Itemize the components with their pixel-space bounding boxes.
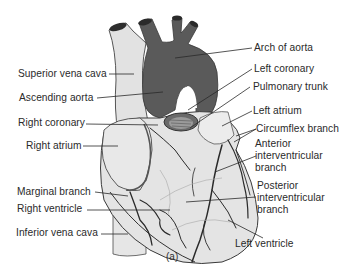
label-right-atrium: Right atrium bbox=[26, 140, 82, 152]
label-anterior-interventricular-3: branch bbox=[255, 162, 286, 174]
label-posterior-interventricular-3: branch bbox=[257, 204, 288, 216]
label-arch-of-aorta: Arch of aorta bbox=[254, 42, 313, 54]
label-anterior-interventricular-1: Anterior bbox=[255, 138, 291, 150]
figure-caption: (a) bbox=[166, 251, 178, 262]
label-ascending-aorta: Ascending aorta bbox=[19, 92, 93, 104]
label-posterior-interventricular-1: Posterior bbox=[257, 180, 298, 192]
label-posterior-interventricular-2: interventricular bbox=[257, 192, 325, 204]
label-left-atrium: Left atrium bbox=[253, 105, 302, 117]
label-pulmonary-trunk: Pulmonary trunk bbox=[253, 81, 328, 93]
label-marginal-branch: Marginal branch bbox=[17, 186, 91, 198]
aorta-branch-opening-2 bbox=[172, 15, 182, 20]
label-right-ventricle: Right ventricle bbox=[17, 203, 82, 215]
label-inferior-vena-cava: Inferior vena cava bbox=[16, 227, 98, 239]
label-circumflex-branch: Circumflex branch bbox=[256, 123, 339, 135]
superior-vena-cava bbox=[109, 23, 148, 132]
label-right-coronary: Right coronary bbox=[18, 117, 85, 129]
label-superior-vena-cava: Superior vena cava bbox=[18, 68, 107, 80]
label-left-coronary: Left coronary bbox=[254, 63, 314, 75]
label-left-ventricle: Left ventricle bbox=[235, 238, 293, 250]
label-anterior-interventricular-2: interventricular bbox=[255, 150, 323, 162]
